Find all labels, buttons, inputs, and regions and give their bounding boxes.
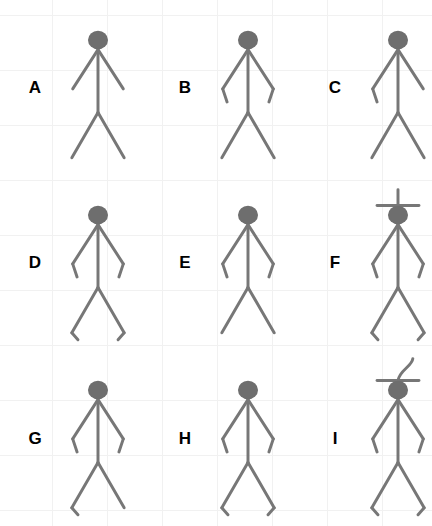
left-upper-arm (223, 49, 248, 88)
left-leg (222, 463, 248, 508)
right-foot-bent (418, 508, 424, 515)
left-foot-bent (72, 508, 78, 515)
head (388, 381, 408, 399)
right-upper-arm (398, 400, 423, 439)
right-forearm-bent (119, 439, 123, 452)
head (88, 30, 108, 48)
left-forearm-bent (223, 89, 227, 102)
head (88, 206, 108, 224)
left-foot-bent (222, 508, 228, 515)
right-forearm-bent (119, 264, 123, 277)
left-upper-arm (373, 225, 398, 264)
left-foot-bent (372, 508, 378, 515)
left-forearm-bent (73, 439, 77, 452)
right-forearm-bent (269, 264, 273, 277)
right-leg (398, 463, 424, 508)
left-leg (222, 112, 248, 157)
right-upper-arm (248, 49, 273, 88)
left-leg (72, 112, 98, 157)
left-upper-arm (73, 400, 98, 439)
figure-cell-d[interactable]: D (0, 175, 150, 350)
right-upper-arm (98, 49, 123, 88)
figure-cell-g[interactable]: G (0, 351, 150, 526)
right-leg (248, 463, 274, 508)
right-upper-arm (98, 225, 123, 264)
figure-label-e: E (172, 254, 198, 271)
head (238, 381, 258, 399)
stick-figure-grid: ABCDEFGHI (0, 0, 432, 526)
figure-label-d: D (22, 254, 48, 271)
left-leg (72, 463, 98, 508)
figure-cell-b[interactable]: B (150, 0, 300, 175)
figure-cell-f[interactable]: F (300, 175, 432, 350)
right-leg (98, 112, 124, 157)
left-forearm-bent (373, 89, 377, 102)
antenna-curved (398, 359, 413, 381)
right-forearm-bent (419, 264, 423, 277)
stick-figure-drawing (346, 356, 432, 520)
right-upper-arm (248, 400, 273, 439)
figure-label-b: B (172, 79, 198, 96)
stick-figure-drawing (46, 6, 150, 170)
left-foot-bent (72, 333, 78, 340)
left-leg (372, 463, 398, 508)
right-leg (98, 463, 124, 508)
right-foot-bent (118, 333, 124, 340)
figure-label-h: H (172, 430, 198, 447)
left-upper-arm (73, 225, 98, 264)
figure-label-i: I (322, 430, 348, 447)
left-leg (372, 287, 398, 332)
stick-figure-drawing (196, 181, 300, 345)
right-leg (98, 287, 124, 332)
right-leg (248, 112, 274, 157)
left-leg (72, 287, 98, 332)
left-upper-arm (373, 400, 398, 439)
figure-cell-h[interactable]: H (150, 351, 300, 526)
left-forearm-bent (223, 439, 227, 452)
stick-figure-drawing (46, 181, 150, 345)
figure-label-c: C (322, 79, 348, 96)
figure-cell-c[interactable]: C (300, 0, 432, 175)
left-foot-bent (372, 333, 378, 340)
figure-cell-e[interactable]: E (150, 175, 300, 350)
right-upper-arm (398, 225, 423, 264)
stick-figure-drawing (196, 6, 300, 170)
head (238, 30, 258, 48)
left-forearm-bent (373, 264, 377, 277)
left-upper-arm (223, 400, 248, 439)
left-leg (372, 112, 398, 157)
stick-figure-drawing (346, 6, 432, 170)
left-upper-arm (73, 49, 98, 88)
figure-label-g: G (22, 430, 48, 447)
right-leg (398, 112, 424, 157)
right-forearm-bent (269, 89, 273, 102)
figure-cell-a[interactable]: A (0, 0, 150, 175)
right-upper-arm (398, 49, 423, 88)
head (88, 381, 108, 399)
left-leg (222, 287, 248, 332)
left-forearm-bent (73, 264, 77, 277)
right-upper-arm (98, 400, 123, 439)
figure-label-a: A (22, 79, 48, 96)
left-forearm-bent (223, 264, 227, 277)
stick-figure-drawing (196, 356, 300, 520)
right-upper-arm (248, 225, 273, 264)
left-forearm-bent (373, 439, 377, 452)
left-upper-arm (223, 225, 248, 264)
figure-label-f: F (322, 254, 348, 271)
figure-cell-i[interactable]: I (300, 351, 432, 526)
stick-figure-drawing (346, 181, 432, 345)
right-leg (248, 287, 274, 332)
right-foot-bent (268, 508, 274, 515)
stick-figure-drawing (46, 356, 150, 520)
left-upper-arm (373, 49, 398, 88)
right-leg (398, 287, 424, 332)
head (388, 206, 408, 224)
right-foot-bent (418, 333, 424, 340)
right-forearm-bent (419, 439, 423, 452)
head (388, 30, 408, 48)
right-forearm-bent (269, 439, 273, 452)
head (238, 206, 258, 224)
